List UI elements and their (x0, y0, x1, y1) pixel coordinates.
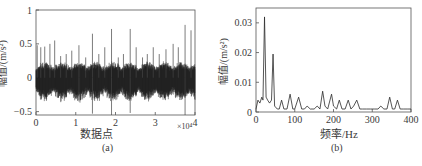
a-y-tick-label: 0.5 (20, 38, 33, 49)
a-axes-box (36, 10, 195, 115)
y-axis-label-b: 幅值/(m/s²) (215, 38, 230, 85)
spectrum-plot: 010020030040000.010.020.03 (211, 0, 422, 166)
a-x-tick-label: 2 (113, 117, 118, 128)
b-x-tick-label: 400 (404, 114, 419, 125)
b-x-tick-label: 100 (287, 114, 302, 125)
a-y-tick-label: −0.5 (14, 106, 32, 117)
b-y-tick-label: 0 (247, 107, 252, 118)
a-x-tick-label: 1 (73, 117, 78, 128)
chart-panel-b: 010020030040000.010.020.03 频率/Hz (b) 幅值/… (211, 0, 422, 166)
caption-b: (b) (331, 142, 343, 153)
a-x-tick-label: 4 (193, 117, 198, 128)
chart-panel-a: 01234−0.500.51 数据点 ×10⁴ (a) 幅值/(m/s²) (0, 0, 211, 166)
noise-band (36, 61, 195, 102)
b-y-tick-label: 0.01 (235, 77, 253, 88)
x-multiplier-a: ×10⁴ (177, 122, 192, 131)
b-axes-box (256, 8, 411, 112)
a-x-tick-label: 3 (153, 117, 158, 128)
x-axis-label-a: 数据点 (80, 125, 113, 141)
a-x-tick-label: 0 (34, 117, 39, 128)
x-axis-label-b: 频率/Hz (320, 125, 358, 141)
a-y-tick-label: 0 (27, 72, 32, 83)
b-x-tick-label: 0 (254, 114, 259, 125)
b-x-tick-label: 300 (365, 114, 380, 125)
spectrum-line (256, 17, 411, 109)
a-y-tick-label: 1 (27, 5, 32, 16)
b-x-tick-label: 200 (326, 114, 341, 125)
y-axis-label-a: 幅值/(m/s²) (0, 40, 9, 87)
b-y-tick-label: 0.02 (235, 47, 253, 58)
caption-a: (a) (102, 142, 113, 153)
b-y-tick-label: 0.03 (235, 17, 253, 28)
